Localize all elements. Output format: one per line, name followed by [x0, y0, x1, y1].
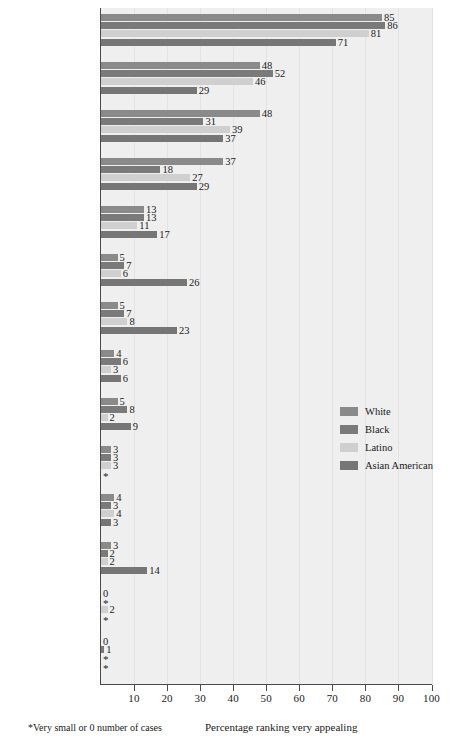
x-tick-label: 80 [350, 692, 380, 704]
bar-value-label: 37 [225, 157, 236, 166]
x-tick-label: 90 [383, 692, 413, 704]
bar [101, 78, 253, 85]
x-tick [332, 685, 333, 691]
bar-value-label: 46 [255, 77, 266, 86]
gridline [432, 8, 433, 684]
x-tick-label: 10 [119, 692, 149, 704]
bar-value-label: 23 [179, 326, 190, 335]
bar-value-label: 11 [139, 221, 149, 230]
legend-label: White [365, 404, 391, 419]
x-tick [200, 685, 201, 691]
bar [101, 454, 111, 461]
bar-value-label: 86 [387, 21, 398, 30]
bar [101, 646, 104, 653]
bar-value-label: 9 [133, 422, 138, 431]
x-tick-label: 60 [284, 692, 314, 704]
bar-value-label: 3 [113, 461, 118, 470]
bar-value-label: 71 [338, 38, 349, 47]
bar-value-label: 6 [123, 374, 128, 383]
x-tick [365, 685, 366, 691]
bar-value-label: 3 [113, 365, 118, 374]
bar-value-label: 5 [120, 253, 125, 262]
x-tick-label: 50 [251, 692, 281, 704]
x-tick-label: 30 [185, 692, 215, 704]
gridline [398, 8, 399, 684]
legend-swatch [340, 461, 358, 470]
x-tick-label: 20 [152, 692, 182, 704]
bar-value-label: 48 [262, 61, 273, 70]
footnote: *Very small or 0 number of cases [28, 722, 162, 733]
bar [101, 262, 124, 269]
bar-value-label: 14 [149, 566, 160, 575]
x-axis-title: Percentage ranking very appealing [205, 721, 357, 733]
bar [101, 135, 223, 142]
bar [101, 70, 273, 77]
bar [101, 206, 144, 213]
bar-value-label: 8 [129, 405, 134, 414]
legend-label: Black [365, 422, 390, 437]
x-tick-label: 40 [218, 692, 248, 704]
bar [101, 414, 108, 421]
bar [101, 214, 144, 221]
bar [101, 126, 230, 133]
bar [101, 318, 127, 325]
gridline [365, 8, 366, 684]
bar [101, 39, 336, 46]
bar [101, 519, 111, 526]
legend-label: Latino [365, 440, 392, 455]
x-tick [398, 685, 399, 691]
bar-value-label: 4 [116, 349, 121, 358]
x-tick [299, 685, 300, 691]
bar-value-label: 37 [225, 134, 236, 143]
bar [101, 231, 157, 238]
x-tick [134, 685, 135, 691]
bar [101, 166, 160, 173]
bar [101, 327, 177, 334]
bar-value-star: * [103, 616, 109, 624]
bar [101, 350, 114, 357]
bar [101, 87, 197, 94]
bar [101, 606, 108, 613]
bar-value-label: 52 [275, 69, 286, 78]
bar-chart: 102030405060708090100 Having vaginalinte… [0, 0, 462, 748]
bar-value-label: 2 [110, 413, 115, 422]
bar-value-label: 3 [113, 518, 118, 527]
bar [101, 366, 111, 373]
x-tick-label: 100 [417, 692, 447, 704]
bar-value-label: 8 [129, 317, 134, 326]
x-tick [167, 685, 168, 691]
bar [101, 254, 118, 261]
bar [101, 423, 131, 430]
x-tick-label: 70 [317, 692, 347, 704]
bar [101, 14, 382, 21]
bar [101, 375, 121, 382]
bar-value-label: 5 [120, 301, 125, 310]
bar-value-label: 29 [199, 86, 210, 95]
bar [101, 302, 118, 309]
bar-value-label: 6 [123, 269, 128, 278]
x-tick [233, 685, 234, 691]
legend-swatch [340, 407, 358, 416]
bar [101, 398, 118, 405]
x-tick [266, 685, 267, 691]
bar [101, 446, 111, 453]
bar [101, 22, 385, 29]
bar [101, 558, 108, 565]
bar-value-star: * [103, 664, 109, 672]
bar [101, 110, 260, 117]
bar-value-label: 31 [205, 117, 216, 126]
bar [101, 462, 111, 469]
gridline [332, 8, 333, 684]
bar-value-label: 48 [262, 109, 273, 118]
bar-value-label: 6 [123, 357, 128, 366]
x-tick [432, 685, 433, 691]
legend-swatch [340, 425, 358, 434]
bar-value-label: 2 [110, 605, 115, 614]
bar [101, 183, 197, 190]
bar [101, 118, 203, 125]
bar-value-label: 81 [371, 29, 382, 38]
bar [101, 550, 108, 557]
bar [101, 30, 369, 37]
bar [101, 270, 121, 277]
bar-value-label: 29 [199, 182, 210, 191]
